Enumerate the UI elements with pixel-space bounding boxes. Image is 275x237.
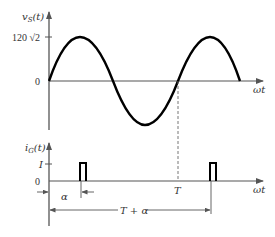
- bottom-y-axis-label: iG(t): [25, 142, 46, 155]
- gate-current-plot: iG(t) I 0 ωt T α T + α: [25, 142, 266, 226]
- thyristor-gate-timing-diagram: vS(t) 120 √2 0 ωt iG(t) I 0 ωt T α T + α: [0, 0, 275, 237]
- bottom-x-axis-label: ωt: [253, 184, 266, 195]
- gate-pulse-1: [80, 163, 86, 181]
- bottom-zero-label: 0: [35, 176, 40, 187]
- top-y-axis-label: vS(t): [22, 11, 44, 24]
- alpha-label: α: [61, 191, 68, 202]
- span-label: T + α: [120, 205, 148, 216]
- gate-pulse-2: [210, 163, 216, 181]
- source-voltage-plot: vS(t) 120 √2 0 ωt: [12, 11, 266, 180]
- top-x-axis-label: ωt: [253, 84, 266, 95]
- peak-value-label: 120 √2: [12, 32, 40, 43]
- pulse-level-label: I: [38, 159, 44, 170]
- period-marker-label: T: [174, 185, 182, 196]
- top-zero-label: 0: [35, 76, 40, 87]
